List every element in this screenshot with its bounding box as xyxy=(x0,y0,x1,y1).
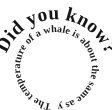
did-you-know-stamp: The temperature of a whale is about the … xyxy=(0,0,112,110)
circular-text-graphic: The temperature of a whale is about the … xyxy=(0,0,112,110)
